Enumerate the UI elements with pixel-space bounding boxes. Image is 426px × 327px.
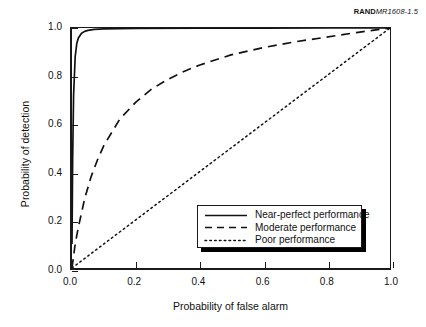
y-tick-mark (72, 125, 78, 126)
y-tick-label: 1.0 (32, 21, 62, 33)
x-tick-label: 0.0 (63, 276, 77, 288)
legend-line-swatch (204, 235, 248, 246)
y-axis-title: Probability of detection (19, 69, 31, 239)
figure-number: MR1608-1.5 (376, 7, 418, 16)
y-tick-mark (72, 271, 78, 272)
x-tick-label: 0.2 (127, 276, 141, 288)
x-tick-label: 0.6 (256, 276, 270, 288)
y-tick-label: 0.0 (32, 264, 62, 276)
chart-figure: RANDMR1608-1.5 0.00.20.40.60.81.0 0.00.2… (0, 0, 426, 327)
legend-item: Poor performance (204, 234, 355, 247)
y-tick-mark (72, 28, 78, 29)
y-tick-mark (72, 174, 78, 175)
chart-legend: Near-perfect performanceModerate perform… (197, 205, 362, 248)
y-tick-mark (72, 77, 78, 78)
legend-item: Near-perfect performance (204, 209, 355, 222)
x-axis-title: Probability of false alarm (70, 300, 391, 312)
legend-label: Moderate performance (255, 222, 356, 234)
figure-id-label: RANDMR1608-1.5 (354, 7, 418, 16)
rand-wordmark: RAND (354, 7, 376, 16)
x-tick-mark (200, 262, 201, 268)
x-tick-mark (265, 262, 266, 268)
y-tick-label: 0.2 (32, 215, 62, 227)
x-tick-mark (393, 262, 394, 268)
x-tick-label: 0.4 (191, 276, 205, 288)
y-tick-label: 0.6 (32, 118, 62, 130)
legend-label: Near-perfect performance (255, 209, 370, 221)
legend-line-swatch (204, 222, 248, 233)
y-tick-mark (72, 222, 78, 223)
x-tick-mark (72, 262, 73, 268)
legend-label: Poor performance (255, 234, 335, 246)
x-tick-mark (136, 262, 137, 268)
x-tick-label: 0.8 (320, 276, 334, 288)
y-tick-label: 0.4 (32, 167, 62, 179)
x-tick-label: 1.0 (384, 276, 398, 288)
legend-line-swatch (204, 210, 248, 221)
y-tick-label: 0.8 (32, 70, 62, 82)
legend-item: Moderate performance (204, 222, 355, 235)
x-tick-mark (329, 262, 330, 268)
